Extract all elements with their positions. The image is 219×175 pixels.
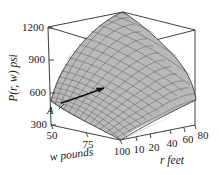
z-axis-title: P(r, w) psi: [7, 54, 20, 103]
r-tick-mark: [150, 134, 151, 138]
r-tick-mark: [184, 128, 185, 132]
w-tick-label: 100: [114, 145, 131, 157]
w-axis-title: w pounds: [49, 145, 95, 163]
surface-plot-canvas: A 1200 900 600 300 P(r, w) psi 50 75 100…: [0, 0, 219, 175]
r-tick-label: 80: [198, 129, 210, 141]
annotation-label-a: A: [46, 105, 54, 116]
r-tick-label: 20: [149, 141, 161, 153]
z-tick-label: 600: [30, 86, 47, 98]
r-tick-label: 10: [134, 143, 146, 155]
w-tick-mark: [120, 140, 122, 144]
r-tick-label: 60: [183, 133, 195, 145]
r-axis-title: r feet: [160, 154, 185, 167]
w-tick-label: 50: [47, 129, 59, 141]
w-tick-mark: [86, 133, 88, 137]
r-tick-mark: [136, 137, 137, 141]
z-tick-label: 300: [31, 118, 48, 130]
surface-plot-figure: A 1200 900 600 300 P(r, w) psi 50 75 100…: [0, 0, 219, 175]
r-tick-mark: [170, 130, 171, 134]
z-tick-label: 1200: [22, 21, 45, 33]
z-tick-label: 900: [29, 53, 46, 65]
r-tick-label: 40: [167, 137, 179, 149]
surface-mesh: [51, 11, 205, 140]
r-tick-mark: [195, 125, 196, 129]
surface-body: [51, 12, 196, 140]
